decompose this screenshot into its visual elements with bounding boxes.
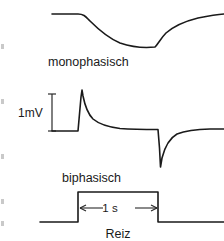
scan-edge-marks xyxy=(1,44,4,226)
monophasic-label: monophasisch xyxy=(48,55,129,69)
biphasic-trace xyxy=(52,90,224,167)
electrophysiology-figure: monophasisch 1mV biphasisch 1 s Reiz xyxy=(0,0,224,241)
amplitude-scale-label: 1mV xyxy=(18,106,43,120)
stimulus-label: Reiz xyxy=(105,227,130,241)
stimulus-pulse-trace xyxy=(40,192,224,222)
duration-label: 1 s xyxy=(102,202,118,214)
biphasic-label: biphasisch xyxy=(62,171,121,185)
figure-canvas: monophasisch 1mV biphasisch 1 s Reiz xyxy=(0,0,224,241)
duration-scale-bar xyxy=(80,205,157,211)
monophasic-trace xyxy=(52,14,224,47)
amplitude-scale-bar xyxy=(48,94,56,131)
